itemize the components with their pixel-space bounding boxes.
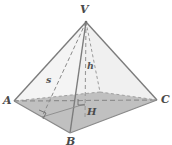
pyramid-figure: V A C B H s h xyxy=(0,0,172,145)
label-apex-v: V xyxy=(80,4,89,15)
pyramid-svg-canvas xyxy=(0,0,172,145)
label-slant-height-s: s xyxy=(46,75,51,85)
label-center-h: H xyxy=(87,107,96,117)
label-vertex-c: C xyxy=(161,94,170,105)
label-vertex-a: A xyxy=(3,95,12,106)
label-vertex-b: B xyxy=(66,136,75,145)
apex-point xyxy=(85,21,88,24)
label-height-h: h xyxy=(87,61,94,71)
